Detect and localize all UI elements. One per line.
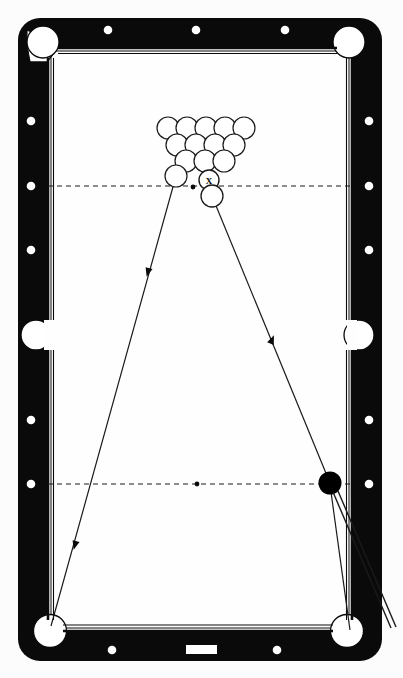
pocket-bottom-left-mouth[interactable] bbox=[34, 615, 67, 648]
pocket-top-left-mouth[interactable] bbox=[27, 26, 59, 58]
sight-dot bbox=[365, 416, 374, 425]
sight-dot bbox=[365, 480, 374, 489]
pool-table-diagram: X bbox=[0, 0, 403, 678]
sight-dot bbox=[27, 182, 36, 191]
sight-dot bbox=[365, 246, 374, 255]
sight-dot bbox=[365, 182, 374, 191]
sight-dot bbox=[27, 117, 36, 126]
table-name-plate bbox=[186, 645, 217, 654]
sight-dot bbox=[27, 416, 36, 425]
pocket-top-right-mouth[interactable] bbox=[333, 26, 365, 58]
pocket-left-side-throat bbox=[44, 320, 54, 350]
rack-ball-break-contact[interactable] bbox=[165, 165, 187, 187]
sight-dot bbox=[273, 646, 282, 655]
sight-dot bbox=[365, 117, 374, 126]
foot-spot-marker bbox=[191, 185, 196, 190]
sight-dot bbox=[281, 26, 290, 35]
rack-ball[interactable] bbox=[213, 150, 235, 172]
sight-dot bbox=[27, 480, 36, 489]
sight-dot bbox=[104, 26, 113, 35]
sight-dot bbox=[192, 26, 201, 35]
pool-table-canvas: X bbox=[0, 0, 403, 678]
sight-dot bbox=[108, 646, 117, 655]
sight-dot bbox=[27, 246, 36, 255]
center-spot-marker bbox=[195, 482, 200, 487]
pocket-right-side-throat bbox=[347, 320, 357, 350]
object-ball[interactable] bbox=[201, 185, 223, 207]
